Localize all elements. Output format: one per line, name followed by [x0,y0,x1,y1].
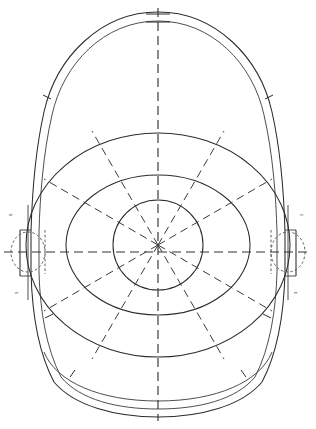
radial-line-300 [92,131,158,245]
shell-tick-lower-left [45,314,53,318]
technical-drawing-canvas: 6 5 2 3 [0,0,316,429]
shell-tick-bottom-left [70,370,75,377]
shell-tick-bottom-right [241,370,246,377]
edge-mark-right-lower: 3 [293,291,298,294]
radial-line-330 [44,179,158,245]
radial-line-30 [158,179,272,245]
edge-mark-right-upper: 2 [299,213,304,216]
oval-dome-plan-drawing: 6 5 2 3 [0,0,316,429]
radial-line-150 [158,245,272,311]
shell-tick-upper-left [43,95,51,99]
radial-line-60 [158,131,224,245]
edge-mark-labels: 6 5 2 3 [8,213,304,294]
center-lines-group [4,8,312,421]
edge-mark-left-upper: 6 [8,213,13,216]
edge-mark-left-lower: 5 [14,291,19,294]
shell-tick-upper-right [265,95,273,99]
radial-line-120 [158,245,224,359]
shell-tick-lower-right [263,314,271,318]
radial-line-240 [92,245,158,359]
radial-line-210 [44,245,158,311]
